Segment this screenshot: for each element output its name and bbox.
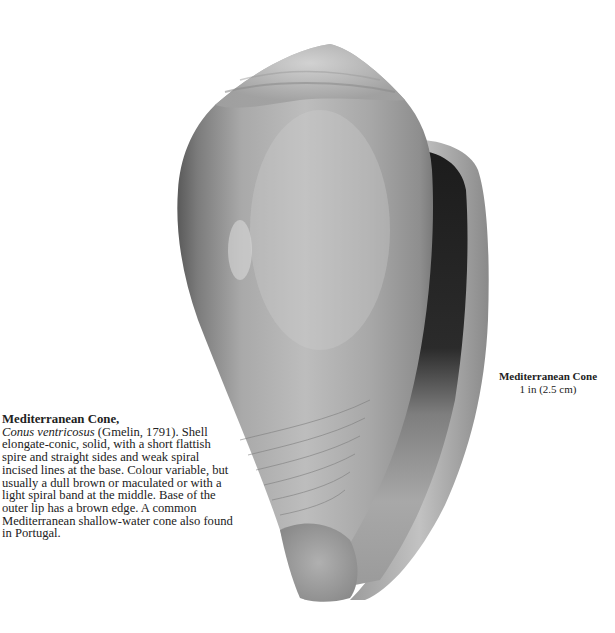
specimen-description: Shell elongate-conic, solid, with a shor… xyxy=(2,425,233,541)
spire xyxy=(215,44,405,108)
caption-title: Mediterranean Cone xyxy=(478,370,615,383)
specimen-description-block: Mediterranean Cone, Conus ventricosus (G… xyxy=(2,413,234,540)
caption-size: 1 in (2.5 cm) xyxy=(478,383,615,396)
figure-caption: Mediterranean Cone 1 in (2.5 cm) xyxy=(478,370,615,396)
